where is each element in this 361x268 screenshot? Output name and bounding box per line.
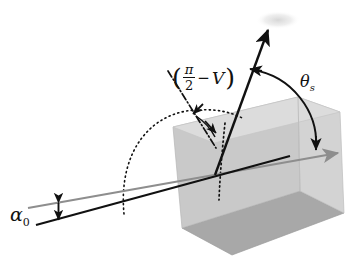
smudge-mark xyxy=(256,11,300,29)
fraction-denominator: 2 xyxy=(183,79,195,92)
theta-arc-head-upper xyxy=(250,69,262,71)
theta-subscript: s xyxy=(310,82,315,93)
paren-open: ( xyxy=(172,65,182,90)
theta-s-label: θs xyxy=(300,72,315,93)
minus-sign: − xyxy=(196,69,211,87)
scattering-geometry-figure: α0 θs ( π 2 − V ) xyxy=(0,0,361,268)
pi-over-two-fraction: π 2 xyxy=(183,63,196,92)
alpha-symbol: α xyxy=(10,203,23,225)
figure-canvas xyxy=(0,0,361,268)
alpha-zero-label: α0 xyxy=(10,203,30,229)
alpha-subscript: 0 xyxy=(23,216,30,229)
theta-symbol: θ xyxy=(300,72,310,91)
view-variable: V xyxy=(212,68,224,88)
view-angle-expression: ( π 2 − V ) xyxy=(172,63,235,92)
view-angle-arrow-a xyxy=(193,104,203,114)
fraction-numerator: π xyxy=(183,63,196,76)
paren-close: ) xyxy=(225,65,235,90)
